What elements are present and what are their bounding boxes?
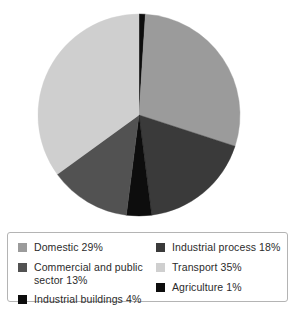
legend-swatch-icon-domestic [18,243,27,252]
legend-label-commercial: Commercial and public sector 13% [34,261,143,287]
legend-label-industrial-buildings: Industrial buildings 4% [34,293,141,306]
legend-item-commercial: Commercial and public sector 13% [18,261,158,287]
legend-swatch-icon-agriculture [156,283,165,292]
legend-swatch-icon-industrial-process [156,243,165,252]
chart-legend: Domestic 29% Commercial and public secto… [7,232,288,302]
legend-label-agriculture: Agriculture 1% [172,281,242,294]
legend-item-transport: Transport 35% [156,261,286,274]
legend-item-industrial-buildings: Industrial buildings 4% [18,293,158,306]
legend-item-domestic: Domestic 29% [18,241,158,254]
legend-item-agriculture: Agriculture 1% [156,281,286,294]
pie-chart-area [0,0,297,228]
pie-svg [0,0,297,228]
legend-item-industrial-process: Industrial process 18% [156,241,286,254]
legend-label-transport: Transport 35% [172,261,242,274]
legend-column-right: Industrial process 18% Transport 35% Agr… [156,241,286,301]
pie-chart-figure: Domestic 29% Commercial and public secto… [0,0,297,326]
legend-label-domestic: Domestic 29% [34,241,103,254]
legend-column-left: Domestic 29% Commercial and public secto… [18,241,158,313]
legend-swatch-icon-industrial-buildings [18,295,27,304]
legend-label-industrial-process: Industrial process 18% [172,241,280,254]
legend-swatch-icon-transport [156,263,165,272]
pie-slice-group [38,14,240,216]
legend-swatch-icon-commercial [18,263,27,272]
